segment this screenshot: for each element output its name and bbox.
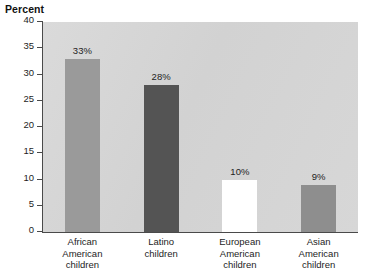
y-axis-tick-mark (37, 231, 43, 232)
bar-value-label: 33% (73, 45, 92, 56)
x-axis-category-label-line: African (43, 236, 122, 248)
y-axis-tick-mark (37, 47, 43, 48)
bar-rect (222, 180, 257, 233)
x-axis-category-label-line: children (201, 259, 280, 271)
plot-area: 33%28%10%9% (43, 22, 358, 232)
x-axis-category-label-line: American (279, 248, 358, 260)
x-axis-category-label-line: Latino (122, 236, 201, 248)
x-axis-category-label-line: Asian (279, 236, 358, 248)
x-axis-line (42, 232, 358, 233)
bar-value-label: 28% (152, 71, 171, 82)
x-axis-category-label-line: American (43, 248, 122, 260)
y-axis-tick-label: 5 (29, 199, 34, 209)
bar-rect (301, 185, 336, 232)
bar: 9% (301, 185, 336, 232)
x-axis-category-label: AsianAmericanchildren (279, 236, 358, 271)
y-axis-tick-mark (37, 179, 43, 180)
y-axis-tick-mark (37, 74, 43, 75)
y-axis-tick-mark (37, 100, 43, 101)
x-axis-category-label-line: children (279, 259, 358, 271)
y-axis-tick-label: 40 (23, 15, 34, 25)
y-axis-tick-mark (37, 126, 43, 127)
y-axis-tick-label: 0 (29, 225, 34, 235)
y-axis-tick-label: 30 (23, 68, 34, 78)
x-axis-category-label-line: children (122, 248, 201, 260)
y-axis-tick-label: 25 (23, 94, 34, 104)
y-axis-tick-mark (37, 21, 43, 22)
y-axis-tick-mark (37, 152, 43, 153)
y-axis-tick-label: 10 (23, 173, 34, 183)
bar: 28% (144, 85, 179, 232)
bar-value-label: 9% (312, 171, 326, 182)
bar-rect (65, 59, 100, 232)
bar-rect (144, 85, 179, 232)
x-axis-category-label-line: children (43, 259, 122, 271)
x-axis-category-label-line: American (201, 248, 280, 260)
bar: 33% (65, 59, 100, 232)
x-axis-category-label: EuropeanAmericanchildren (201, 236, 280, 271)
bar: 10% (222, 180, 257, 233)
y-axis-tick-mark (37, 205, 43, 206)
y-axis-tick-label: 20 (23, 120, 34, 130)
bar-value-label: 10% (230, 166, 249, 177)
y-axis-tick-label: 35 (23, 41, 34, 51)
chart-figure: Percent 33%28%10%9% 0510152025303540 Afr… (0, 0, 365, 280)
x-axis-category-label: Latinochildren (122, 236, 201, 259)
y-axis-tick-label: 15 (23, 146, 34, 156)
x-axis-category-label-line: European (201, 236, 280, 248)
x-axis-category-label: AfricanAmericanchildren (43, 236, 122, 271)
y-axis-line (42, 22, 43, 233)
